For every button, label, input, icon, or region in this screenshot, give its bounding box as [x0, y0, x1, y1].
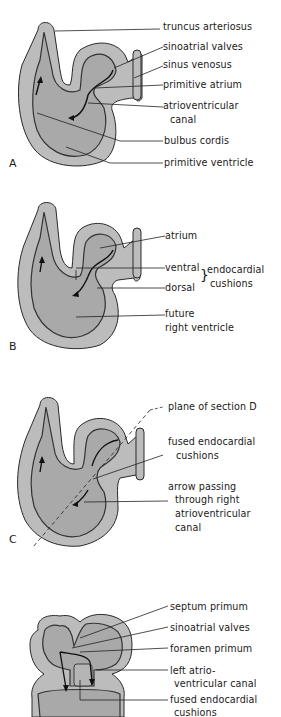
label-left-av-line1: left atrio- — [170, 665, 215, 676]
label-sinus-venosus: sinus venosus — [163, 59, 232, 70]
label-fused-d-line1: fused endocardial — [170, 694, 257, 705]
panel-letter-c: C — [9, 533, 17, 546]
label-arrow-line3: atrioventricular — [175, 508, 251, 519]
label-future-line2: right ventricle — [165, 322, 234, 333]
label-fused-cushions-line2: cushions — [176, 450, 219, 461]
label-arrow-line4: canal — [175, 522, 201, 533]
label-foramen-primum: foramen primum — [170, 643, 252, 654]
label-future-line1: future — [165, 308, 195, 319]
label-av-canal-line1: atrioventricular — [163, 100, 239, 111]
label-bulbus-cordis: bulbus cordis — [164, 135, 229, 146]
label-endocardial-line1: endocardial — [207, 264, 264, 275]
label-sinoatrial-valves-d: sinoatrial valves — [170, 622, 250, 633]
label-atrium: atrium — [165, 230, 197, 241]
label-left-av-line2: ventricular canal — [174, 678, 256, 689]
label-ventral: ventral — [165, 262, 200, 273]
panel-letter-b: B — [9, 340, 17, 353]
panel-a: truncus arteriosus sinoatrial valves sin… — [0, 0, 281, 175]
label-sinoatrial-valves: sinoatrial valves — [163, 41, 243, 52]
label-av-canal-line2: canal — [170, 114, 196, 125]
label-arrow-line2: through right — [175, 494, 240, 505]
label-fused-d-line2: cushions — [174, 707, 217, 717]
label-plane-of-section: plane of section D — [168, 401, 257, 412]
label-septum-primum: septum primum — [170, 601, 248, 612]
panel-c: plane of section D fused endocardial cus… — [0, 380, 281, 550]
label-primitive-ventricle: primitive ventricle — [164, 157, 254, 168]
label-primitive-atrium: primitive atrium — [163, 79, 242, 90]
label-fused-cushions-line1: fused endocardial — [168, 436, 255, 447]
label-dorsal: dorsal — [165, 282, 195, 293]
panel-d: septum primum sinoatrial valves foramen … — [0, 590, 281, 717]
label-truncus-arteriosus: truncus arteriosus — [163, 21, 252, 32]
label-endocardial-line2: cushions — [210, 278, 253, 289]
label-arrow-line1: arrow passing — [168, 481, 236, 492]
panel-letter-a: A — [9, 157, 17, 170]
panel-b: atrium ventral dorsal } endocardial cush… — [0, 180, 281, 355]
